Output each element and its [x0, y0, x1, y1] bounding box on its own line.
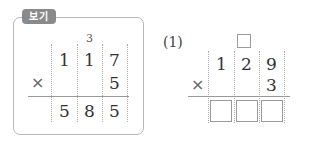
answer-box-hundreds[interactable] [210, 100, 232, 122]
multiplicand-digit-tens: 1 [77, 50, 102, 70]
multiply-sign: × [31, 73, 44, 92]
multiplicand-digit-hundreds: 1 [52, 50, 77, 70]
multiplicand-digit-hundreds: 1 [209, 54, 234, 74]
example-badge: 보기 [22, 9, 56, 24]
multiplier-digit: 3 [259, 75, 284, 95]
sum-line [28, 96, 129, 97]
product-digit-ones: 5 [102, 101, 127, 121]
product-digit-tens: 8 [77, 101, 102, 121]
multiplicand-digit-ones: 9 [259, 54, 284, 74]
answer-box-tens[interactable] [236, 100, 258, 122]
sum-line [188, 96, 290, 97]
product-digit-hundreds: 5 [52, 101, 77, 121]
column-divider [284, 51, 285, 123]
multiplicand-digit-ones: 7 [102, 50, 127, 70]
carry-digit: 3 [77, 33, 102, 45]
carry-input-box[interactable] [237, 34, 251, 48]
column-divider [127, 44, 128, 122]
problem-number: (1) [163, 34, 183, 50]
multiply-sign: × [191, 75, 204, 94]
multiplier-digit: 5 [102, 73, 127, 93]
multiplicand-digit-tens: 2 [234, 54, 259, 74]
answer-box-ones[interactable] [261, 100, 283, 122]
